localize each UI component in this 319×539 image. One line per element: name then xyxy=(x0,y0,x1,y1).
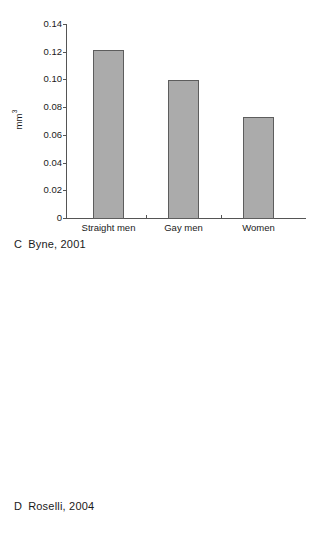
panel-caption-c: CByne, 2001 xyxy=(14,238,86,250)
bar xyxy=(243,117,274,219)
x-axis-tick-mark xyxy=(146,215,147,219)
panel-caption-text-d: Roselli, 2004 xyxy=(28,500,94,512)
bar xyxy=(168,80,199,219)
bar-chart-byne-2001: mm3 00.020.040.060.080.100.120.14 Straig… xyxy=(0,0,319,232)
x-axis-tick-mark xyxy=(221,215,222,219)
x-axis-tick-label: Women xyxy=(213,222,304,233)
panel-caption-d: DRoselli, 2004 xyxy=(14,500,94,512)
panel-roselli-2004: mm3 00.050.100.150.200.250.300.35 Hetero… xyxy=(0,270,319,539)
y-axis-tick-label: 0.02 xyxy=(0,185,62,195)
y-axis-tick-label: 0.08 xyxy=(0,102,62,112)
panel-letter-c: C xyxy=(14,238,22,250)
bar xyxy=(93,50,124,219)
y-axis-tick-label: 0.14 xyxy=(0,19,62,29)
y-axis-tick-label: 0 xyxy=(0,213,62,223)
panel-caption-text-c: Byne, 2001 xyxy=(28,238,86,250)
y-axis-tick-label: 0.10 xyxy=(0,74,62,84)
bar-chart-roselli-2004: mm3 00.050.100.150.200.250.300.35 Hetero… xyxy=(0,270,319,495)
y-axis-tick-label: 0.12 xyxy=(0,47,62,57)
y-axis-line xyxy=(66,24,67,219)
y-axis-tick-label: 0.04 xyxy=(0,158,62,168)
y-axis-tick-label: 0.06 xyxy=(0,130,62,140)
panel-letter-d: D xyxy=(14,500,22,512)
panel-byne-2001: mm3 00.020.040.060.080.100.120.14 Straig… xyxy=(0,0,319,270)
